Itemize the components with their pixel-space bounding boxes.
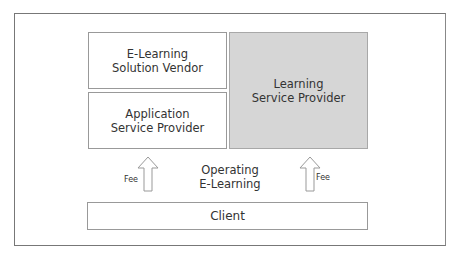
application-service-provider-box: Application Service Provider xyxy=(88,92,227,149)
fee-label-right: Fee xyxy=(316,173,330,182)
client-box: Client xyxy=(87,202,368,230)
asp-label: Application Service Provider xyxy=(111,107,205,135)
lsp-label: Learning Service Provider xyxy=(252,77,346,105)
client-label: Client xyxy=(210,209,245,223)
learning-service-provider-box: Learning Service Provider xyxy=(229,32,368,149)
vendor-label: E-Learning Solution Vendor xyxy=(112,47,203,75)
fee-label-left: Fee xyxy=(124,175,138,184)
operating-e-learning-label: Operating E-Learning xyxy=(180,163,280,191)
e-learning-solution-vendor-box: E-Learning Solution Vendor xyxy=(88,32,227,89)
up-arrow-icon-left xyxy=(137,156,159,192)
